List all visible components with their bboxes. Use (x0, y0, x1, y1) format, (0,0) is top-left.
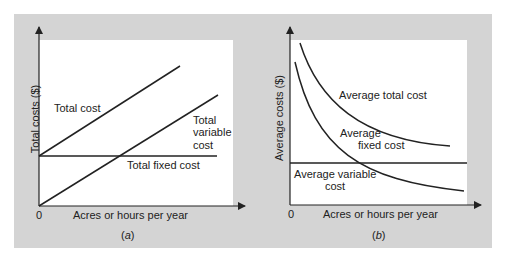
label-average-fixed-cost-line2: fixed cost (358, 139, 404, 151)
y-axis-label-b: Average costs ($) (273, 68, 285, 168)
chart-lines (0, 0, 506, 261)
label-total-variable-cost-line1: Total (193, 114, 216, 126)
label-total-variable-cost-line3: cost (193, 139, 213, 151)
label-average-total-cost: Average total cost (339, 89, 427, 101)
label-average-fixed-cost-line1: Average (340, 127, 381, 139)
origin-label-b: 0 (288, 208, 294, 220)
y-axis-label-a: Total costs ($) (29, 74, 41, 164)
label-total-fixed-cost: Total fixed cost (127, 159, 200, 171)
x-axis-label-b: Acres or hours per year (323, 208, 438, 220)
origin-label-a: 0 (36, 209, 42, 221)
x-axis-label-a: Acres or hours per year (73, 209, 188, 221)
label-average-variable-cost-line2: cost (325, 180, 345, 192)
label-total-variable-cost-line2: variable (193, 126, 232, 138)
label-total-cost: Total cost (54, 102, 100, 114)
caption-a: (a) (121, 229, 134, 241)
caption-b: (b) (372, 229, 385, 241)
label-average-variable-cost-line1: Average variable (294, 168, 376, 180)
